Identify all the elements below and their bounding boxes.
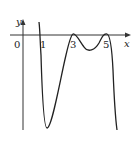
x-axis-arrow-icon xyxy=(125,33,131,38)
tick-label-1: 1 xyxy=(40,39,46,50)
origin-label: 0 xyxy=(14,39,20,50)
tick-label-3: 3 xyxy=(70,39,76,50)
y-axis-label: y xyxy=(15,16,22,27)
x-axis-label: x xyxy=(124,38,130,49)
tick-label-5: 5 xyxy=(103,39,109,50)
function-graph: y 0 1 3 5 x xyxy=(0,0,136,144)
graph-svg: y 0 1 3 5 x xyxy=(0,0,136,144)
